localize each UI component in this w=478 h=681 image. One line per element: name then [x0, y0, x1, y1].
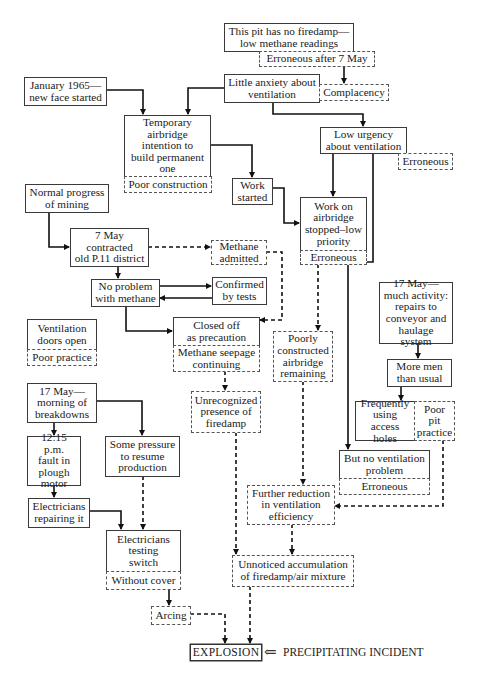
- node-methane-admitted: Methane admitted: [211, 240, 267, 265]
- node-electricians-testing: Electricians testing switch: [106, 530, 181, 572]
- node-erroneous-1: Erroneous: [398, 153, 453, 170]
- node-no-problem-methane: No problem with methane: [91, 279, 160, 307]
- node-poor-practice: Poor practice: [27, 349, 97, 366]
- node-no-ventilation-problem: But no ventilation problem: [339, 450, 430, 479]
- node-unrecognized-firedamp: Unrecognized presence of firedamp: [191, 391, 261, 433]
- node-fault-plough-motor: 12:15 p.m. fault in plough motor: [27, 436, 81, 486]
- node-some-pressure: Some pressure to resume production: [105, 436, 180, 477]
- node-ventilation-doors-open: Ventilation doors open: [27, 319, 97, 350]
- node-pit-no-firedamp: This pit has no firedamp— low methane re…: [224, 23, 354, 52]
- node-normal-progress: Normal progress of mining: [25, 184, 109, 213]
- node-arcing: Arcing: [151, 606, 191, 625]
- node-poor-pit-practice: Poor pit practice: [414, 401, 455, 441]
- hollow-left-arrow-icon: ⇐: [264, 643, 277, 661]
- node-explosion: EXPLOSION: [190, 644, 262, 661]
- node-erroneous-3: Erroneous: [339, 478, 430, 495]
- node-without-cover: Without cover: [106, 571, 181, 590]
- node-low-urgency: Low urgency about ventilation: [320, 127, 407, 154]
- node-little-anxiety: Little anxiety about ventilation: [224, 74, 320, 103]
- node-work-started: Work started: [232, 178, 273, 205]
- precipitating-incident-label: PRECIPITATING INCIDENT: [283, 646, 424, 658]
- node-17may-breakdowns: 17 May— morning of breakdowns: [27, 383, 97, 423]
- node-17may-activity: 17 May— much activity: repairs to convey…: [379, 282, 453, 344]
- node-methane-seepage: Methane seepage continuing: [173, 345, 260, 372]
- node-more-men: More men than usual: [387, 359, 452, 387]
- node-poorly-constructed: Poorly constructed airbridge remaining: [273, 331, 333, 382]
- node-confirmed-tests: Confirmed by tests: [212, 277, 267, 305]
- node-complacency: Complacency: [319, 84, 389, 101]
- node-erroneous-after-7may: Erroneous after 7 May: [259, 51, 375, 67]
- node-work-stopped: Work on airbridge stopped–low priority: [300, 197, 367, 251]
- node-further-reduction: Further reduction in ventilation efficie…: [247, 485, 335, 525]
- node-poor-construction: Poor construction: [124, 176, 212, 193]
- node-jan-1965: January 1965— new face started: [24, 77, 107, 106]
- node-temporary-airbridge: Temporary airbridge intention to build p…: [124, 115, 211, 177]
- node-closed-off: Closed off as precaution: [173, 317, 260, 346]
- node-unnoticed-accumulation: Unnoticed accumulation of firedamp/air m…: [232, 555, 354, 587]
- node-erroneous-2: Erroneous: [300, 250, 367, 265]
- node-electricians-repairing: Electricians repairing it: [28, 498, 90, 528]
- node-7may-contracted: 7 May contracted old P.11 district: [70, 228, 149, 267]
- node-frequently-access-holes: Frequently using access holes: [355, 401, 415, 441]
